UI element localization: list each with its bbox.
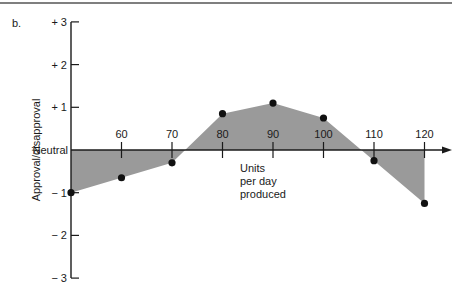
y-tick-label: − 2 — [51, 229, 67, 241]
y-axis-title: Approval/disapproval — [30, 99, 42, 202]
x-tick-label: 100 — [314, 128, 332, 140]
chart-canvas: + 3+ 2+ 1Neutral− 1− 2− 3607080901001101… — [0, 0, 462, 294]
x-axis-arrow-icon — [442, 147, 452, 154]
data-point — [219, 110, 226, 117]
panel-label: b. — [12, 17, 21, 29]
data-point — [118, 174, 125, 181]
x-tick-label: 90 — [267, 128, 279, 140]
x-tick-label: 80 — [216, 128, 228, 140]
y-tick-label: + 1 — [51, 101, 67, 113]
data-point — [421, 200, 428, 207]
x-tick-label: 60 — [115, 128, 127, 140]
y-tick-label: − 1 — [51, 187, 67, 199]
data-point — [370, 157, 377, 164]
data-point — [67, 189, 74, 196]
data-point — [269, 99, 276, 106]
x-tick-label: 70 — [166, 128, 178, 140]
data-point — [320, 114, 327, 121]
y-tick-label: − 3 — [51, 272, 67, 284]
y-tick-label: + 3 — [51, 16, 67, 28]
axes — [71, 22, 452, 278]
x-axis-title: Unitsper dayproduced — [240, 162, 286, 200]
x-tick-label: 120 — [415, 128, 433, 140]
x-axis-title-line: produced — [240, 188, 286, 200]
y-tick-label: + 2 — [51, 59, 67, 71]
x-axis-title-line: per day — [240, 175, 277, 187]
data-point — [168, 159, 175, 166]
x-axis-title-line: Units — [240, 162, 266, 174]
x-tick-label: 110 — [365, 128, 383, 140]
